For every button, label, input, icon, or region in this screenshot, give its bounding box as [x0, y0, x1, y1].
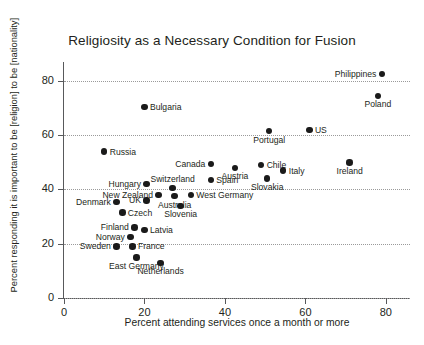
data-point [143, 197, 149, 203]
data-point [306, 127, 312, 133]
point-label: France [138, 242, 165, 251]
data-point [188, 192, 194, 198]
data-point [177, 203, 183, 209]
data-point [157, 260, 163, 266]
gridline-y-0 [64, 298, 410, 299]
data-point [101, 148, 107, 154]
point-label: Italy [289, 166, 305, 175]
point-label: Czech [128, 208, 152, 217]
point-label: Netherlands [137, 267, 183, 276]
x-tick-label-80: 80 [366, 306, 406, 318]
point-label: Slovenia [164, 210, 197, 219]
y-tick-label-0: 0 [24, 291, 54, 303]
point-label: UK [129, 196, 141, 205]
data-point [258, 162, 264, 168]
data-point [208, 161, 214, 167]
x-tick-label-20: 20 [124, 306, 164, 318]
y-tick-label-80: 80 [24, 74, 54, 86]
point-label: Portugal [253, 136, 285, 145]
x-axis-title: Percent attending services once a month … [64, 317, 410, 328]
data-point [264, 175, 270, 181]
point-label: Philippines [335, 70, 377, 79]
y-tick-label-20: 20 [24, 237, 54, 249]
data-point [129, 243, 135, 249]
y-axis-title: Percent responding it is important to be… [8, 41, 19, 293]
point-label: US [315, 126, 327, 135]
data-point [133, 254, 139, 260]
data-point [119, 209, 125, 215]
point-label: Latvia [150, 226, 173, 235]
gridline-y-60 [64, 135, 410, 136]
x-tick-label-60: 60 [285, 306, 325, 318]
data-point [208, 177, 214, 183]
y-tick-label-40: 40 [24, 182, 54, 194]
data-point [171, 193, 177, 199]
x-tick-60 [305, 298, 306, 304]
point-label: Switzerland [150, 175, 194, 184]
point-label: Canada [175, 159, 205, 168]
x-tick-40 [225, 298, 226, 304]
gridline-y-80 [64, 81, 410, 82]
data-point [113, 243, 119, 249]
point-label: Bulgaria [150, 102, 182, 111]
y-axis-line [63, 62, 64, 299]
data-point [155, 192, 161, 198]
plot-area: PhilippinesPolandBulgariaUSPortugalRussi… [64, 62, 410, 298]
x-tick-80 [386, 298, 387, 304]
y-tick-40 [58, 189, 64, 190]
data-point [280, 167, 286, 173]
point-label: Ireland [337, 167, 363, 176]
y-tick-60 [58, 135, 64, 136]
data-point [141, 104, 147, 110]
point-label: Poland [364, 100, 391, 109]
x-tick-label-40: 40 [205, 306, 245, 318]
point-label: Slovakia [251, 183, 283, 192]
point-label: Hungary [108, 180, 140, 189]
data-point [143, 181, 149, 187]
data-point [232, 165, 238, 171]
y-tick-20 [58, 244, 64, 245]
data-point [379, 71, 385, 77]
point-label: Norway [96, 233, 125, 242]
data-point [141, 227, 147, 233]
x-tick-label-0: 0 [44, 306, 84, 318]
scatter-chart-figure: Religiosity as a Necessary Condition for… [0, 0, 424, 345]
point-label: Russia [110, 147, 136, 156]
point-label: Denmark [76, 197, 111, 206]
point-label: Sweden [80, 242, 111, 251]
point-label: Finland [101, 223, 129, 232]
data-point [113, 199, 119, 205]
x-tick-20 [144, 298, 145, 304]
y-tick-label-60: 60 [24, 128, 54, 140]
point-label: Spain [216, 176, 238, 185]
data-point [266, 128, 272, 134]
point-label: West Germany [196, 191, 253, 200]
data-point [131, 224, 137, 230]
x-tick-0 [64, 298, 65, 304]
point-label: Australia [158, 201, 191, 210]
data-point [127, 234, 133, 240]
data-point [375, 93, 381, 99]
data-point [346, 159, 352, 165]
y-tick-80 [58, 81, 64, 82]
chart-title: Religiosity as a Necessary Condition for… [0, 33, 424, 48]
